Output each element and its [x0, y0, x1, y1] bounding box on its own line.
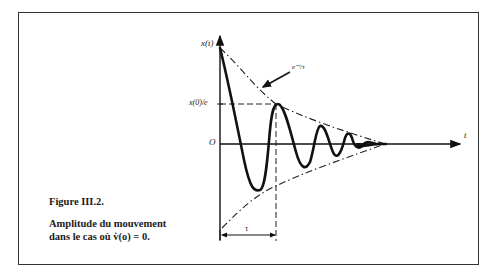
y-axis-label: x(t) [201, 38, 214, 48]
envelope-arrow [263, 72, 290, 87]
tau-label: τ [245, 224, 248, 233]
envelope-label: e⁻ᵗ/τ [292, 63, 305, 71]
x-axis-label: t [464, 130, 467, 140]
lower-envelope [222, 144, 385, 228]
figure-title: Figure III.2. [49, 195, 209, 208]
origin-label: O [209, 137, 216, 147]
figure-description-line2: dans le cas où v̇(o) = 0. [49, 230, 209, 243]
figure-caption: Figure III.2. Amplitude du mouvement dan… [49, 195, 209, 243]
figure-description-line1: Amplitude du mouvement [49, 217, 209, 230]
y-tick-label-x0-over-e: x(0)/e [189, 98, 208, 107]
